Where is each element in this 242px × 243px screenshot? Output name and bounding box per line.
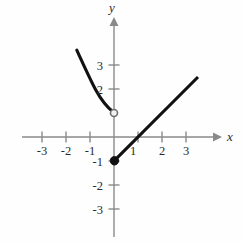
coordinate-plane-svg: -3 -2 -1 1 2 3 3 2 -1 -2 -3 x y [0, 0, 242, 243]
x-tick-label-2: 2 [159, 144, 165, 158]
y-tick-label-neg1: -1 [93, 155, 103, 169]
y-axis-arrow-icon [110, 17, 119, 26]
open-endpoint-marker [111, 110, 118, 117]
y-tick-label-neg3: -3 [93, 203, 103, 217]
x-axis-label: x [226, 129, 233, 144]
x-tick-label-neg3: -3 [37, 144, 47, 158]
curve-branch-path [77, 50, 114, 112]
x-tick-label-1: 1 [130, 144, 136, 158]
x-tick-label-3: 3 [183, 144, 189, 158]
y-axis-label: y [107, 0, 115, 15]
function-graph-figure: -3 -2 -1 1 2 3 3 2 -1 -2 -3 x y [0, 0, 242, 243]
y-tick-label-2: 2 [97, 83, 103, 97]
x-axis-arrow-icon [213, 133, 222, 142]
y-tick-label-3: 3 [97, 59, 103, 73]
closed-endpoint-marker [110, 157, 118, 165]
y-tick-label-neg2: -2 [93, 179, 103, 193]
x-tick-label-neg2: -2 [61, 144, 71, 158]
